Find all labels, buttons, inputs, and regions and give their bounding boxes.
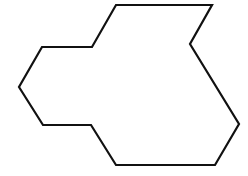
polygon-shape bbox=[19, 5, 239, 165]
polygon-figure bbox=[0, 0, 248, 176]
diagram-canvas bbox=[0, 0, 248, 176]
